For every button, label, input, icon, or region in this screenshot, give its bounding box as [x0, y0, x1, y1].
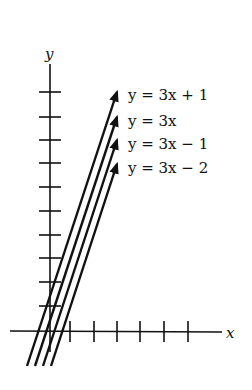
line-3x	[35, 117, 117, 366]
line-3x-plus-1	[27, 92, 117, 366]
label-3x: y = 3x	[127, 112, 177, 130]
label-3x-minus-2: y = 3x − 2	[127, 159, 208, 177]
label-3x-minus-1: y = 3x − 1	[127, 135, 208, 153]
y-axis-label: y	[44, 45, 54, 63]
coordinate-plane: y x y = 3x + 1 y = 3x y = 3x − 1 y = 3x …	[0, 0, 252, 390]
x-axis-label: x	[226, 324, 235, 342]
label-3x-plus-1: y = 3x + 1	[127, 86, 208, 104]
line-labels: y = 3x + 1 y = 3x y = 3x − 1 y = 3x − 2	[127, 86, 208, 177]
parallel-lines	[27, 92, 117, 366]
y-axis: y	[39, 45, 61, 352]
